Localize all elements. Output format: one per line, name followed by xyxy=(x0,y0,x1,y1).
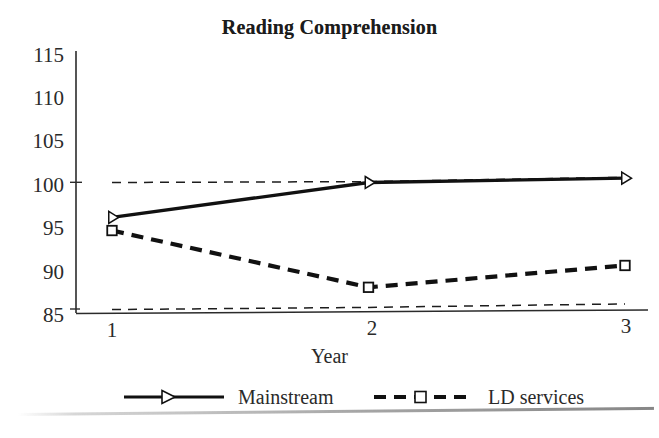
square-icon xyxy=(415,392,426,403)
series-markers-ld-services xyxy=(107,226,630,292)
legend-key-ld-services xyxy=(372,387,476,407)
data-point-marker-square xyxy=(364,283,374,293)
data-point-marker-square xyxy=(620,261,630,271)
reading-comprehension-chart-figure: Reading Comprehension 115 110 105 100 95… xyxy=(0,0,659,438)
triangle-right-icon xyxy=(162,391,175,404)
legend-label-ld-services: LD services xyxy=(488,386,584,409)
legend-key-mainstream xyxy=(122,387,226,407)
x-tick-label-2: 2 xyxy=(352,318,392,339)
data-point-marker-triangle xyxy=(365,177,375,189)
x-axis-title: Year xyxy=(0,345,659,368)
legend-label-mainstream: Mainstream xyxy=(238,386,334,409)
data-point-marker-square xyxy=(107,226,117,236)
x-tick-label-3: 3 xyxy=(606,316,646,337)
series-line-ld-services xyxy=(112,231,625,288)
x-axis-line xyxy=(76,310,648,314)
legend-item-mainstream[interactable]: Mainstream xyxy=(122,383,334,411)
data-point-marker-triangle xyxy=(622,172,632,184)
x-tick-label-1: 1 xyxy=(92,320,132,341)
plot-area xyxy=(0,0,659,438)
legend-item-ld-services[interactable]: LD services xyxy=(372,383,584,411)
lower-reference-line xyxy=(112,304,625,310)
data-point-marker-triangle xyxy=(109,211,119,223)
